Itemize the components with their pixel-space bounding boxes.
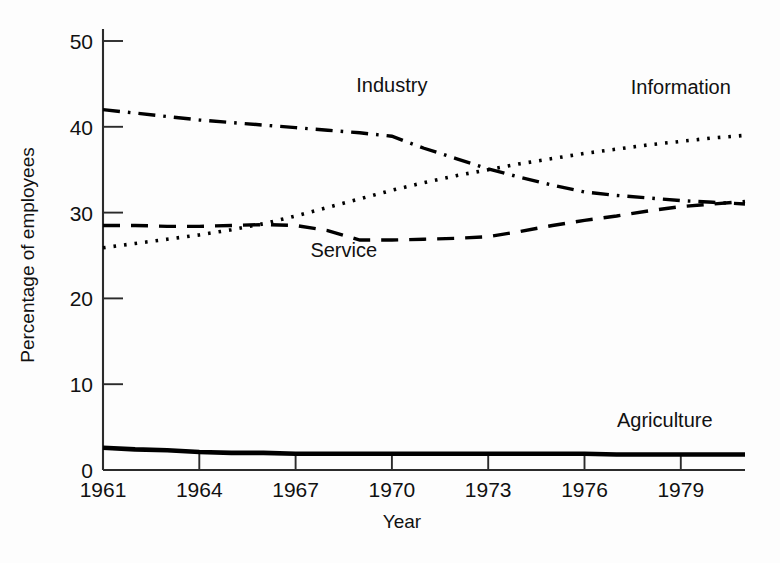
series-lines — [103, 110, 745, 455]
series-line-agriculture — [103, 448, 745, 455]
chart-container: 01020304050 1961196419671970197319761979… — [0, 0, 780, 563]
y-tick-label: 10 — [70, 373, 93, 396]
y-axis-title: Percentage of employees — [17, 147, 38, 362]
y-axis-tick-labels: 01020304050 — [70, 30, 93, 482]
x-tick-label: 1961 — [80, 478, 127, 501]
line-chart: 01020304050 1961196419671970197319761979… — [0, 0, 780, 563]
y-tick-label: 20 — [70, 287, 93, 310]
x-tick-label: 1973 — [465, 478, 512, 501]
x-axis-tick-labels: 1961196419671970197319761979 — [80, 478, 705, 501]
y-tick-label: 30 — [70, 202, 93, 225]
x-tick-label: 1970 — [369, 478, 416, 501]
axis-tick-marks — [103, 41, 681, 470]
x-tick-label: 1979 — [657, 478, 704, 501]
series-line-industry — [103, 110, 745, 204]
series-line-information — [103, 135, 745, 247]
x-tick-label: 1976 — [561, 478, 608, 501]
y-tick-label: 50 — [70, 30, 93, 53]
series-label-agriculture: Agriculture — [617, 409, 713, 431]
series-label-service: Service — [310, 239, 377, 261]
x-tick-label: 1967 — [272, 478, 319, 501]
x-axis-title: Year — [383, 511, 422, 532]
y-tick-label: 40 — [70, 116, 93, 139]
series-label-industry: Industry — [356, 74, 427, 96]
series-label-information: Information — [631, 76, 731, 98]
x-tick-label: 1964 — [176, 478, 223, 501]
series-inline-labels: IndustryInformationServiceAgriculture — [310, 74, 730, 431]
